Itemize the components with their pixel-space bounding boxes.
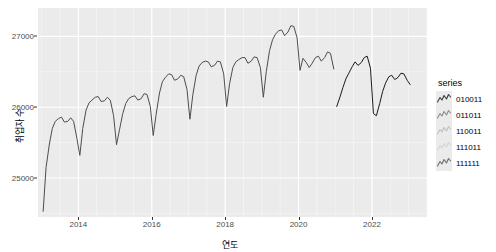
- legend: series 010011011011110011111011111111: [436, 78, 496, 171]
- y-tick-label: 25000: [0, 174, 34, 183]
- y-tick-mark: [34, 36, 37, 37]
- legend-label: 111111: [456, 159, 480, 168]
- legend-label: 010011: [456, 95, 482, 104]
- legend-label: 111011: [456, 143, 481, 152]
- plot-panel: [38, 8, 427, 217]
- y-tick-label: 27000: [0, 32, 34, 41]
- legend-title: series: [438, 78, 496, 88]
- legend-label: 011011: [456, 111, 482, 120]
- x-tick-mark: [225, 217, 226, 220]
- y-tick-mark: [34, 107, 37, 108]
- grid-minor: [42, 8, 427, 217]
- x-axis-title: 연도: [0, 238, 496, 251]
- x-tick-mark: [299, 217, 300, 220]
- y-tick-mark: [34, 178, 37, 179]
- legend-key-line-icon: [436, 123, 452, 139]
- grid-minor-horizontal: [38, 72, 427, 214]
- x-tick-mark: [372, 217, 373, 220]
- x-tick-label: 2014: [69, 220, 87, 229]
- chart-root: 취업자 수 250002600027000 201420162018202020…: [0, 0, 496, 252]
- legend-item[interactable]: 111011: [436, 139, 496, 155]
- legend-item[interactable]: 111111: [436, 155, 496, 171]
- legend-key-line-icon: [436, 139, 452, 155]
- x-tick-label: 2020: [290, 220, 308, 229]
- plot-area: [38, 8, 427, 217]
- y-tick-label: 26000: [0, 103, 34, 112]
- x-tick-label: 2016: [143, 220, 161, 229]
- grid-major-horizontal: [38, 36, 427, 178]
- x-tick-label: 2018: [216, 220, 234, 229]
- legend-label: 110011: [456, 127, 482, 136]
- legend-items: 010011011011110011111011111111: [436, 91, 496, 171]
- legend-item[interactable]: 010011: [436, 91, 496, 107]
- legend-item[interactable]: 110011: [436, 123, 496, 139]
- x-tick-mark: [78, 217, 79, 220]
- x-tick-label: 2022: [363, 220, 381, 229]
- grid-major-vertical: [78, 8, 372, 217]
- legend-item[interactable]: 011011: [436, 107, 496, 123]
- legend-key-line-icon: [436, 107, 452, 123]
- x-tick-mark: [152, 217, 153, 220]
- x-axis-title-text: 연도: [222, 238, 238, 251]
- legend-key-line-icon: [436, 91, 452, 107]
- legend-key-line-icon: [436, 155, 452, 171]
- y-axis-ticks: 250002600027000: [0, 0, 34, 252]
